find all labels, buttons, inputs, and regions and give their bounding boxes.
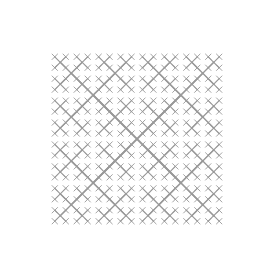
fractal-figure xyxy=(0,0,269,272)
fractal-canvas-app: Fractal Canvas xyxy=(0,0,269,272)
